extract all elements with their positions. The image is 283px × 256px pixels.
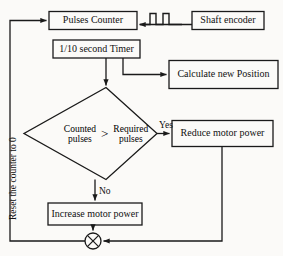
increase-power-box[interactable] <box>48 203 142 225</box>
reset-counter-label: Reset the counter to 0 <box>8 137 18 220</box>
decision-yes-label: Yes <box>159 120 173 130</box>
greater-than-symbol: > <box>101 126 108 142</box>
pulse-waveform-icon <box>140 14 182 25</box>
reduce-power-box[interactable] <box>172 121 273 147</box>
decision-right-line2: pulses <box>119 134 143 144</box>
calculate-position-box[interactable] <box>169 61 278 89</box>
decision-label: Counted pulses > Required pulses <box>40 122 172 146</box>
decision-left-line2: pulses <box>68 134 92 144</box>
pulses-counter-box[interactable] <box>49 12 137 30</box>
decision-no-label: No <box>99 186 111 196</box>
decision-left-operand: Counted pulses <box>64 124 96 145</box>
edge-timer-to-calculate <box>123 58 167 75</box>
decision-right-line1: Required <box>113 124 148 134</box>
flowchart-canvas: Pulses Counter Shaft encoder 1/10 second… <box>0 0 283 256</box>
timer-box[interactable] <box>53 40 140 58</box>
shaft-encoder-box[interactable] <box>192 12 264 30</box>
decision-right-operand: Required pulses <box>113 124 148 145</box>
decision-left-line1: Counted <box>64 124 96 134</box>
